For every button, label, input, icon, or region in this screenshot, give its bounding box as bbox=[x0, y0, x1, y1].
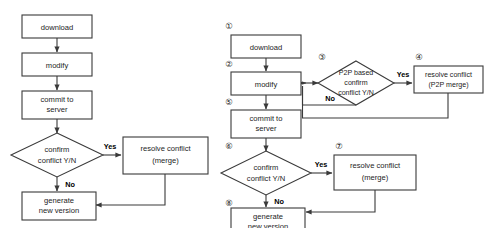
node-resolve-conflict-p2p[interactable]: resolve conflict (P2P merge) bbox=[414, 66, 483, 93]
node-label-line2: (merge) bbox=[152, 156, 179, 165]
node-label-line2: new version bbox=[248, 222, 289, 228]
flowchart-canvas: download modify commit to server confirm… bbox=[0, 0, 494, 228]
edge-resolve-generate bbox=[96, 174, 165, 205]
node-confirm-conflict-right[interactable]: confirm conflict Y/N bbox=[221, 151, 311, 195]
node-label-line1: resolve conflict bbox=[350, 161, 401, 170]
edge-label-no-right: No bbox=[274, 197, 284, 206]
node-label-line1: resolve conflict bbox=[140, 144, 191, 153]
edge-label-yes-p2p: Yes bbox=[397, 70, 410, 79]
step-number-1: ① bbox=[225, 21, 233, 31]
node-label-line2: confirm bbox=[344, 79, 367, 87]
node-label: modify bbox=[46, 61, 69, 70]
diagram-right: download ① modify ② P2P based confirm co… bbox=[221, 21, 483, 229]
node-label-line2: new version bbox=[39, 206, 80, 215]
node-label-line1: P2P based bbox=[339, 69, 374, 77]
node-resolve-conflict-left[interactable]: resolve conflict (merge) bbox=[123, 137, 208, 174]
node-label: download bbox=[250, 43, 283, 52]
node-label-line1: generate bbox=[253, 212, 283, 221]
node-label-line1: resolve conflict bbox=[425, 71, 472, 79]
edge-label-no-left: No bbox=[65, 180, 75, 189]
node-label: download bbox=[41, 23, 74, 32]
node-generate-new-version-left[interactable]: generate new version bbox=[22, 192, 96, 220]
node-label-line2: conflict Y/N bbox=[38, 156, 76, 165]
edge-label-yes-right: Yes bbox=[315, 160, 328, 169]
edge-label-yes-left: Yes bbox=[104, 142, 117, 151]
step-number-4: ④ bbox=[415, 52, 423, 62]
node-label: modify bbox=[255, 80, 278, 89]
node-label-line2: conflict Y/N bbox=[247, 174, 285, 183]
node-label-line1: confirm bbox=[45, 145, 70, 154]
node-label-line1: confirm bbox=[254, 163, 279, 172]
node-label-line1: commit to bbox=[41, 95, 74, 104]
node-commit-to-server-right[interactable]: commit to server bbox=[231, 110, 301, 138]
edge-label-no-p2p: No bbox=[325, 94, 335, 103]
node-modify-right[interactable]: modify bbox=[231, 72, 301, 95]
edge-resolve-generate-r bbox=[306, 190, 375, 212]
node-label-line2: server bbox=[255, 124, 277, 133]
node-label-line2: (P2P merge) bbox=[428, 81, 468, 89]
step-number-3: ③ bbox=[318, 52, 326, 62]
flowchart-figure: download modify commit to server confirm… bbox=[0, 0, 494, 228]
step-number-7: ⑦ bbox=[335, 141, 343, 151]
node-confirm-conflict-left[interactable]: confirm conflict Y/N bbox=[11, 133, 103, 177]
node-resolve-conflict-right[interactable]: resolve conflict (merge) bbox=[334, 155, 416, 190]
node-download-right[interactable]: download bbox=[231, 35, 301, 58]
step-number-5: ⑤ bbox=[225, 97, 233, 107]
node-download-left[interactable]: download bbox=[22, 15, 92, 38]
node-label-line2: (merge) bbox=[362, 173, 389, 182]
diagram-left: download modify commit to server confirm… bbox=[11, 15, 208, 220]
node-label-line3: conflict Y/N bbox=[338, 89, 374, 97]
node-label-line1: generate bbox=[44, 196, 74, 205]
step-number-2: ② bbox=[225, 59, 233, 69]
node-generate-new-version-right[interactable]: generate new version bbox=[231, 208, 305, 228]
node-modify-left[interactable]: modify bbox=[22, 53, 92, 76]
step-number-6: ⑥ bbox=[225, 141, 233, 151]
node-commit-to-server-left[interactable]: commit to server bbox=[22, 91, 92, 119]
step-number-8: ⑧ bbox=[225, 198, 233, 208]
node-label-line1: commit to bbox=[250, 114, 283, 123]
node-label-line2: server bbox=[46, 105, 68, 114]
